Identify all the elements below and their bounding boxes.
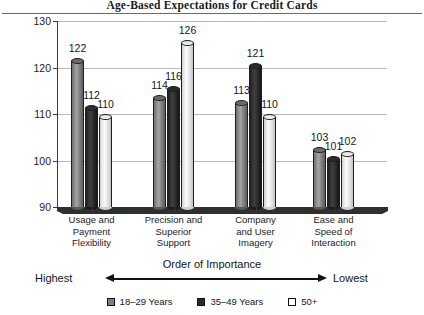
right-arrow-icon bbox=[318, 274, 327, 282]
x-category-label-1: Usage andPaymentFlexibility bbox=[46, 214, 138, 249]
legend-item-3[interactable]: 50+ bbox=[288, 297, 317, 307]
legend-label: 18–29 Years bbox=[120, 297, 173, 307]
x-tick-4 bbox=[334, 207, 335, 212]
legend-label: 50+ bbox=[301, 297, 317, 307]
bar-2-series-3 bbox=[181, 40, 194, 207]
bar-value-label-1-3: 110 bbox=[91, 99, 121, 110]
y-tick-110 bbox=[53, 114, 58, 115]
bar-body bbox=[71, 61, 84, 207]
bar-value-label-2-3: 126 bbox=[173, 25, 203, 36]
y-tick-label-110: 110 bbox=[25, 109, 51, 119]
highest-label: Highest bbox=[35, 272, 72, 284]
x-category-label-2: Precision andSuperiorSupport bbox=[128, 214, 220, 249]
bar-1-series-2 bbox=[85, 105, 98, 207]
bar-4-series-2 bbox=[327, 156, 340, 207]
bar-1-series-3 bbox=[99, 114, 112, 207]
bar-body bbox=[167, 89, 180, 207]
y-tick-label-100: 100 bbox=[25, 156, 51, 166]
y-tick-label-120: 120 bbox=[25, 63, 51, 73]
y-axis-labels: 130 120 110 100 90 bbox=[25, 21, 51, 211]
category-line: Flexibility bbox=[46, 237, 138, 249]
y-tick-120 bbox=[53, 68, 58, 69]
chart-title: Age-Based Expectations for Credit Cards bbox=[0, 0, 424, 11]
category-line: Ease and bbox=[288, 214, 380, 226]
chart-legend: 18–29 Years35–49 Years50+ bbox=[0, 297, 424, 307]
bar-3-series-2 bbox=[249, 63, 262, 207]
bar-4-series-3 bbox=[341, 151, 354, 207]
bar-3-series-3 bbox=[263, 114, 276, 207]
legend-swatch-icon bbox=[288, 298, 296, 306]
x-tick-2 bbox=[174, 207, 175, 212]
bar-body bbox=[153, 98, 166, 207]
bar-body bbox=[313, 150, 326, 207]
category-line: Speed of bbox=[288, 226, 380, 238]
bar-body bbox=[99, 117, 112, 207]
bar-top-ellipse bbox=[181, 40, 194, 46]
bar-body bbox=[263, 117, 276, 207]
legend-item-2[interactable]: 35–49 Years bbox=[197, 297, 263, 307]
legend-item-1[interactable]: 18–29 Years bbox=[107, 297, 173, 307]
bar-body bbox=[327, 159, 340, 207]
gridline-120 bbox=[57, 68, 387, 69]
category-line: Usage and bbox=[46, 214, 138, 226]
gridline-130 bbox=[57, 21, 387, 22]
y-tick-100 bbox=[53, 161, 58, 162]
bar-3-series-1 bbox=[235, 100, 248, 207]
importance-arrow bbox=[105, 274, 327, 283]
chart-container: Age-Based Expectations for Credit Cards … bbox=[0, 0, 424, 315]
order-of-importance-label: Order of Importance bbox=[0, 258, 424, 270]
legend-swatch-icon bbox=[197, 298, 205, 306]
bar-top-ellipse bbox=[249, 63, 262, 69]
legend-label: 35–49 Years bbox=[210, 297, 263, 307]
x-category-label-4: Ease andSpeed ofInteraction bbox=[288, 214, 380, 249]
arrow-line bbox=[113, 278, 319, 280]
bar-2-series-2 bbox=[167, 86, 180, 207]
bar-1-series-1 bbox=[71, 58, 84, 207]
plot-area: 122112110114116126113121110103101102 bbox=[57, 21, 387, 207]
bar-body bbox=[249, 66, 262, 207]
legend-swatch-icon bbox=[107, 298, 115, 306]
category-line: Precision and bbox=[128, 214, 220, 226]
bar-value-label-4-3: 102 bbox=[333, 136, 363, 147]
bar-body bbox=[341, 154, 354, 207]
category-line: Superior bbox=[128, 226, 220, 238]
bar-value-label-1-1: 122 bbox=[63, 43, 93, 54]
bar-4-series-1 bbox=[313, 147, 326, 207]
category-line: Support bbox=[128, 237, 220, 249]
bar-top-ellipse bbox=[327, 156, 340, 162]
lowest-label: Lowest bbox=[333, 272, 368, 284]
bar-body bbox=[235, 103, 248, 207]
x-tick-1 bbox=[92, 207, 93, 212]
bar-top-ellipse bbox=[263, 114, 276, 120]
category-line: Payment bbox=[46, 226, 138, 238]
y-tick-label-90: 90 bbox=[25, 202, 51, 212]
bar-body bbox=[181, 43, 194, 207]
category-line: Interaction bbox=[288, 237, 380, 249]
bar-top-ellipse bbox=[99, 114, 112, 120]
title-divider bbox=[2, 13, 422, 14]
x-tick-3 bbox=[256, 207, 257, 212]
y-tick-130 bbox=[53, 21, 58, 22]
bar-body bbox=[85, 108, 98, 207]
y-tick-label-130: 130 bbox=[25, 16, 51, 26]
bar-value-label-3-3: 110 bbox=[255, 99, 285, 110]
bar-value-label-3-2: 121 bbox=[241, 48, 271, 59]
bar-2-series-1 bbox=[153, 95, 166, 207]
